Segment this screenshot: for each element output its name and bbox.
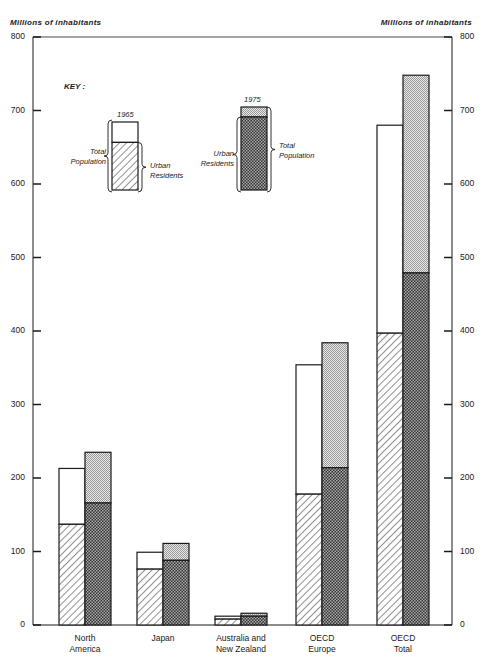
bar-1975-urban (163, 560, 189, 625)
right-tick-label: 100 (460, 546, 474, 556)
bar-1965-urban (59, 524, 85, 625)
bar-1965-urban (377, 333, 403, 625)
right-tick-label: 800 (460, 31, 474, 41)
left-tick-label: 100 (11, 546, 25, 556)
right-tick-label: 400 (460, 325, 474, 335)
bar-1975-urban (85, 503, 111, 625)
legend-1975-left-label: UrbanResidents (184, 149, 234, 169)
left-tick-label: 800 (11, 31, 25, 41)
legend-1975-year: 1975 (244, 95, 261, 105)
right-tick-label: 600 (460, 178, 474, 188)
right-tick-label: 500 (460, 252, 474, 262)
left-tick-label: 600 (11, 178, 25, 188)
bar-1965-urban (137, 569, 163, 625)
left-tick-label: 300 (11, 399, 25, 409)
bar-1965-total (137, 552, 163, 569)
left-axis-title: Millions of inhabitants (10, 18, 101, 27)
legend-1965-urban-swatch (112, 142, 138, 190)
bar-1975-total (85, 452, 111, 503)
legend-1975-right-label: TotalPopulation (279, 141, 314, 161)
category-label: Australia andNew Zealand (201, 633, 281, 655)
category-label: OECDTotal (363, 633, 443, 655)
legend-1965-right-label: UrbanResidents (150, 161, 183, 181)
right-axis-title: Millions of inhabitants (381, 18, 472, 27)
legend-1965-year: 1965 (117, 110, 134, 120)
bar-1975-urban (403, 273, 429, 625)
legend-1965-urban-brace (138, 142, 146, 192)
right-tick-label: 300 (460, 399, 474, 409)
bar-1965-total (296, 365, 322, 494)
legend-1975-total-swatch (241, 107, 267, 117)
right-tick-label: 0 (460, 619, 465, 629)
category-label: NorthAmerica (45, 633, 125, 655)
left-tick-label: 0 (20, 619, 25, 629)
left-tick-label: 200 (11, 472, 25, 482)
legend-title: KEY : (64, 82, 85, 92)
right-tick-label: 700 (460, 105, 474, 115)
bar-1975-urban (241, 616, 267, 625)
bar-1975-urban (322, 468, 348, 625)
bar-1975-total (322, 343, 348, 468)
bar-1965-urban (215, 619, 241, 625)
left-tick-label: 400 (11, 325, 25, 335)
category-label: OECDEurope (282, 633, 362, 655)
legend-1965-total-swatch (112, 122, 138, 142)
left-tick-label: 500 (11, 252, 25, 262)
legend-1975-urban-swatch (241, 117, 267, 190)
bar-1975-total (403, 75, 429, 273)
bar-1975-total (163, 543, 189, 560)
right-tick-label: 200 (460, 472, 474, 482)
category-label: Japan (123, 633, 203, 644)
bar-1965-total (377, 125, 403, 333)
bar-1965-urban (296, 494, 322, 625)
legend-1965-left-label: TotalPopulation (56, 147, 106, 167)
left-tick-label: 700 (11, 105, 25, 115)
population-chart (0, 0, 484, 666)
legend-1975-total-brace (267, 107, 275, 192)
legend-1975-urban-brace (233, 117, 241, 192)
bar-1965-total (59, 468, 85, 524)
